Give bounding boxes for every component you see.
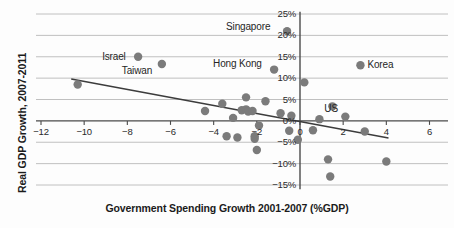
x-tick-label: 4 [370,126,402,137]
y-axis-title: Real GDP Growth, 2007-2011 [16,0,30,193]
x-axis-title: Government Spending Growth 2001-2007 (%G… [0,202,454,214]
data-point [201,107,209,115]
x-tick-label: −8 [111,126,143,137]
data-point [300,78,308,86]
data-point [341,112,349,120]
data-point [218,100,226,108]
data-point [134,53,142,61]
point-label-israel: Israel [102,51,126,62]
scatter-chart: Real GDP Growth, 2007-2011 Government Sp… [0,0,454,228]
point-label-korea: Korea [367,59,393,70]
data-point [382,157,390,165]
x-tick-label: −12 [25,126,57,137]
point-label-hong-kong: Hong Kong [213,58,262,69]
y-tick-label: −10% [252,158,296,169]
y-tick-label: 0% [252,115,296,126]
point-label-singapore: Singapore [226,21,270,32]
y-tick-label: 25% [252,8,296,19]
data-point [73,80,81,88]
plot-area [0,0,454,228]
x-tick-label: −2 [241,126,273,137]
y-tick-label: 10% [252,72,296,83]
y-tick-label: 5% [252,94,296,105]
x-tick-label: 0 [284,126,316,137]
y-tick-label: −15% [252,179,296,190]
data-point [356,61,364,69]
data-point [229,114,237,122]
data-point [242,93,250,101]
data-point [361,127,369,135]
data-point [315,115,323,123]
x-tick-label: −6 [155,126,187,137]
data-point [158,60,166,68]
data-point [326,172,334,180]
point-label-us: US [324,103,338,114]
point-label-taiwan: Taiwan [122,65,152,76]
x-tick-label: 2 [327,126,359,137]
x-tick-label: −10 [68,126,100,137]
data-point [324,155,332,163]
x-tick-label: 6 [414,126,446,137]
x-tick-label: −4 [198,126,230,137]
y-tick-label: −5% [252,136,296,147]
